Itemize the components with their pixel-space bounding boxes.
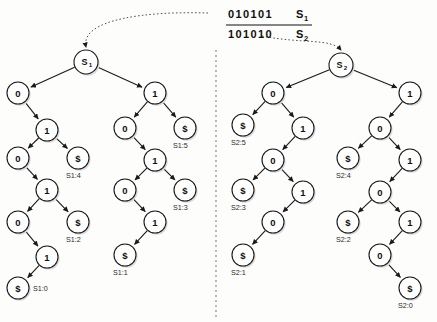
node-label: 1 xyxy=(407,217,413,228)
internal-node[interactable]: 0 xyxy=(262,82,286,106)
tree-edge xyxy=(162,102,175,117)
leaf-node[interactable]: $S1:3 xyxy=(173,179,198,212)
node-label: 0 xyxy=(377,123,382,134)
leaf-node[interactable]: $S2:4 xyxy=(336,147,361,180)
node-label: $ xyxy=(240,185,246,196)
tree-edge xyxy=(28,265,39,277)
tree-edge xyxy=(281,168,293,181)
tree-edge xyxy=(135,231,148,245)
node-label: 1 xyxy=(300,123,306,134)
leaf-node[interactable]: $S2:3 xyxy=(231,179,256,212)
tree-edge xyxy=(253,168,265,180)
tree-edge xyxy=(390,168,402,181)
internal-node[interactable]: 1 xyxy=(292,117,316,141)
leaf-suffix-label: S2:4 xyxy=(336,171,351,180)
internal-node[interactable]: 0 xyxy=(114,117,138,141)
tree-edge xyxy=(358,200,371,212)
node-label: $ xyxy=(182,123,188,134)
tree-edge xyxy=(283,200,295,212)
leaf-suffix-label: S1:2 xyxy=(66,235,81,244)
node-label: 0 xyxy=(122,123,127,134)
node-label: 0 xyxy=(270,88,275,99)
leaf-suffix-label: S1:0 xyxy=(33,284,48,293)
internal-node[interactable]: 1 xyxy=(144,211,168,235)
internal-node[interactable]: 0 xyxy=(7,82,31,106)
leaf-node[interactable]: $S2:5 xyxy=(231,114,256,147)
leaf-node[interactable]: $S1:0 xyxy=(7,277,48,301)
internal-node[interactable]: 1 xyxy=(292,181,316,205)
leaf-suffix-label: S2:2 xyxy=(336,235,351,244)
leaf-node[interactable]: $S1:1 xyxy=(113,244,138,277)
root-node-subscript: 1 xyxy=(89,61,93,68)
internal-node[interactable]: 0 xyxy=(369,244,393,268)
root-node-label: S xyxy=(81,57,87,67)
leaf-suffix-label: S1:5 xyxy=(173,141,188,150)
leaf-node[interactable]: $S1:5 xyxy=(173,117,198,150)
internal-node[interactable]: 0 xyxy=(262,149,286,173)
pointer-to-s1 xyxy=(86,13,208,47)
tree-edge xyxy=(133,136,145,149)
tree-edge xyxy=(26,167,38,180)
leaf-suffix-label: S2:0 xyxy=(398,301,413,310)
node-label: $ xyxy=(182,185,188,196)
leaf-node[interactable]: $S2:1 xyxy=(231,244,256,277)
node-label: $ xyxy=(240,250,246,261)
node-label: $ xyxy=(122,250,128,261)
internal-node[interactable]: 1 xyxy=(399,211,423,235)
node-label: 1 xyxy=(152,155,158,166)
tree-edge xyxy=(353,70,397,88)
internal-node[interactable]: 1 xyxy=(36,246,60,270)
internal-node[interactable]: 1 xyxy=(144,149,168,173)
node-label: 1 xyxy=(44,252,50,263)
leaf-node[interactable]: $S2:0 xyxy=(398,277,423,310)
node-label: 0 xyxy=(270,155,275,166)
string2-bits: 101010 xyxy=(228,28,273,40)
tree-edge xyxy=(28,199,40,212)
internal-node[interactable]: 1 xyxy=(36,119,60,143)
tree-edge xyxy=(253,101,265,114)
tree-edge xyxy=(134,102,147,117)
tree-s1-nodes: S1010$S1:410$S1:21$S1:010$S1:510$S1:31$S… xyxy=(7,50,198,301)
node-label: 0 xyxy=(270,217,275,228)
tree-edge xyxy=(253,231,266,245)
node-label: 1 xyxy=(44,185,50,196)
tree-edge xyxy=(283,136,295,149)
tree-edge xyxy=(163,168,175,180)
leaf-suffix-label: S2:3 xyxy=(231,203,246,212)
internal-node[interactable]: 0 xyxy=(114,179,138,203)
tree-edge xyxy=(31,67,75,87)
internal-node[interactable]: 0 xyxy=(369,117,393,141)
root-node[interactable]: S2 xyxy=(329,53,355,79)
leaf-node[interactable]: $S2:2 xyxy=(336,211,361,244)
leaf-suffix-label: S1:1 xyxy=(113,268,128,277)
internal-node[interactable]: 0 xyxy=(7,147,31,171)
root-node-label: S xyxy=(336,60,342,70)
tree-edge xyxy=(28,138,39,148)
internal-node[interactable]: 0 xyxy=(262,211,286,235)
leaf-node[interactable]: $S1:4 xyxy=(66,147,91,180)
string2-subscript: 2 xyxy=(304,34,308,43)
string1-subscript: 1 xyxy=(304,14,308,23)
tree-edge xyxy=(55,198,68,212)
tree-nodes: S1010$S1:410$S1:21$S1:010$S1:510$S1:31$S… xyxy=(7,50,423,310)
tree-edge xyxy=(388,136,400,149)
root-node-subscript: 2 xyxy=(344,64,348,71)
internal-node[interactable]: 1 xyxy=(399,149,423,173)
internal-node[interactable]: 0 xyxy=(7,211,31,235)
internal-node[interactable]: 1 xyxy=(36,179,60,203)
tree-edge xyxy=(25,231,38,246)
node-label: 0 xyxy=(122,185,127,196)
node-label: 1 xyxy=(300,187,306,198)
leaf-node[interactable]: $S1:2 xyxy=(66,211,91,244)
node-label: 1 xyxy=(152,88,158,99)
internal-node[interactable]: 0 xyxy=(369,181,393,205)
tree-edge xyxy=(358,136,371,148)
root-node[interactable]: S1 xyxy=(74,50,100,76)
tree-edge xyxy=(25,102,38,119)
suffix-tree-figure: 010101 S 1 101010 S 2 S1010$S1:410$S1:21… xyxy=(0,0,437,322)
node-label: 0 xyxy=(15,217,20,228)
node-label: 0 xyxy=(15,88,20,99)
tree-edge xyxy=(280,102,293,117)
header-strings: 010101 S 1 101010 S 2 xyxy=(226,8,312,43)
tree-edge xyxy=(388,264,401,278)
